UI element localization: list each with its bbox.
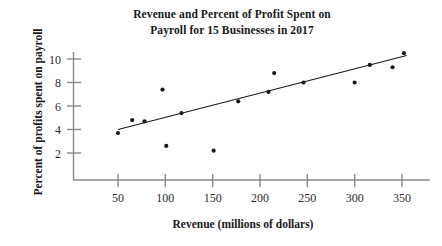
data-point-marker: [212, 149, 216, 153]
x-tick-label: 50: [112, 191, 124, 205]
data-point-marker: [402, 51, 406, 55]
y-tick-label: 8: [55, 76, 61, 90]
data-point-marker: [179, 111, 183, 115]
axes: [74, 52, 431, 180]
data-point-marker: [164, 144, 168, 148]
x-tick-label: 200: [251, 191, 269, 205]
x-tick-label: 100: [156, 191, 174, 205]
data-point-marker: [272, 71, 276, 75]
data-point-marker: [130, 118, 134, 122]
data-point-marker: [236, 99, 240, 103]
data-point-marker: [368, 63, 372, 67]
x-tick-label: 250: [298, 191, 316, 205]
x-axis-ticks: 50100150200250300350: [112, 174, 411, 205]
data-point-marker: [142, 119, 146, 123]
data-point-marker: [116, 131, 120, 135]
y-tick-label: 6: [55, 100, 61, 114]
y-tick-label: 2: [55, 147, 61, 161]
x-tick-label: 350: [393, 191, 411, 205]
trend-line-segment: [118, 55, 407, 129]
x-tick-label: 150: [204, 191, 222, 205]
data-point-marker: [266, 90, 270, 94]
y-tick-label: 10: [49, 53, 61, 67]
data-point-marker: [160, 87, 164, 91]
data-point-marker: [390, 65, 394, 69]
data-point-marker: [353, 80, 357, 84]
plot-area: 50100150200250300350 246810: [0, 0, 442, 246]
x-tick-label: 300: [346, 191, 364, 205]
y-axis-ticks: 246810: [49, 53, 81, 161]
trend-line: [118, 55, 407, 129]
data-point-marker: [301, 80, 305, 84]
y-tick-label: 4: [55, 123, 61, 137]
scatter-plot-figure: Revenue and Percent of Profit Spent on P…: [0, 0, 442, 246]
